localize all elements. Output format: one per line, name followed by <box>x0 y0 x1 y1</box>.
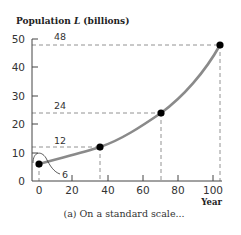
x-tick-label: 40 <box>101 184 114 196</box>
annotation-6: 6 <box>62 169 68 180</box>
population-curve <box>39 45 220 164</box>
data-point-12 <box>96 143 103 150</box>
data-point-24 <box>157 109 164 116</box>
x-tick-label: 80 <box>171 184 184 196</box>
y-tick-label: 0 <box>18 175 25 187</box>
y-tick-label: 30 <box>12 90 25 102</box>
data-point-48 <box>216 41 223 48</box>
annotation-12: 12 <box>54 135 66 146</box>
x-tick-label: 60 <box>136 184 149 196</box>
chart-caption: (a) On a standard scale... <box>63 208 184 219</box>
x-tick-label: 0 <box>36 184 43 196</box>
y-tick-label: 50 <box>12 33 25 45</box>
y-tick-label: 10 <box>12 147 25 159</box>
guide-lines <box>32 45 220 181</box>
y-tick-label: 40 <box>12 61 25 73</box>
x-tick-label: 100 <box>203 184 223 196</box>
annotation-48: 48 <box>54 31 66 42</box>
y-tick-labels: 0 10 20 30 40 50 <box>12 33 25 187</box>
population-chart: Population L (billions) 0 10 20 30 40 <box>0 0 241 235</box>
x-axis-label: Year <box>200 197 222 207</box>
x-tick-label: 20 <box>65 184 78 196</box>
chart-title: Population L (billions) <box>16 16 129 26</box>
x-tick-labels: 0 20 40 60 80 100 <box>36 184 223 196</box>
data-point-6 <box>35 160 42 167</box>
y-tick-label: 20 <box>12 118 25 130</box>
annotation-24: 24 <box>54 100 66 111</box>
